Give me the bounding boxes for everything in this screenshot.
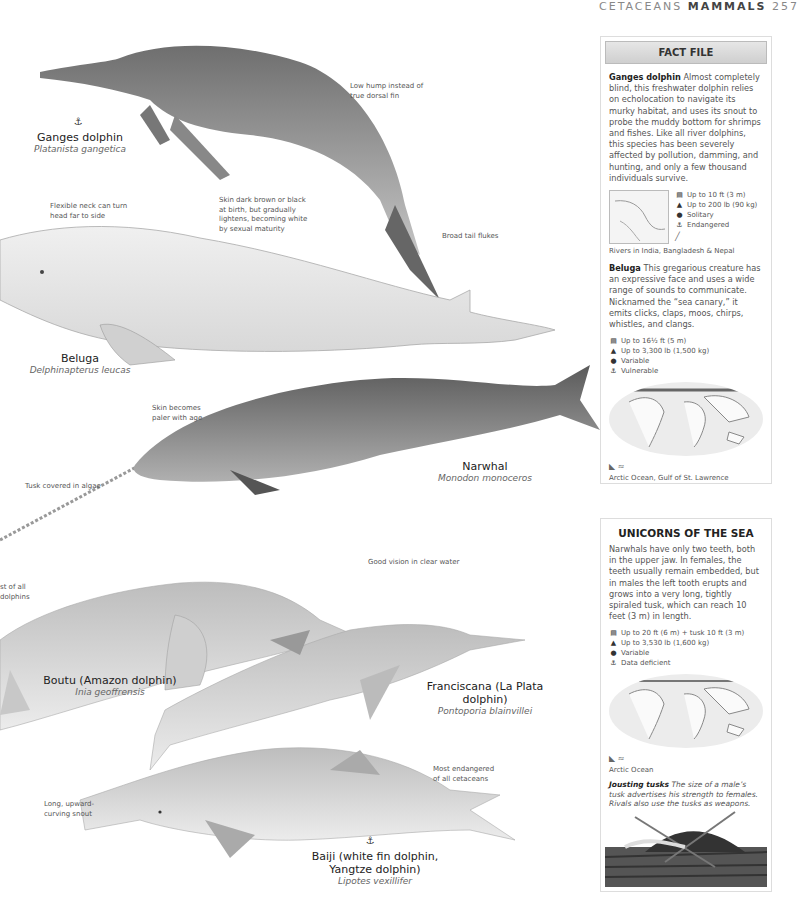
weight-icon: ▲ (609, 346, 618, 356)
social-icon: ● (675, 210, 684, 220)
annotation: st of all dolphins (0, 583, 40, 602)
ganges-fact: Ganges dolphin Almost completely blind, … (609, 72, 763, 184)
annotation: Long, upward-curving snout (44, 800, 104, 819)
species-scientific-name: Inia geoffrensis (40, 687, 180, 698)
beluga-range-map (609, 382, 763, 456)
section-title: CETACEANS (599, 0, 682, 13)
narwhal-illustration (0, 365, 600, 540)
unicorns-panel: UNICORNS OF THE SEA Narwhals have only t… (600, 518, 772, 892)
species-scientific-name: Monodon monoceros (430, 473, 540, 484)
unicorns-title: UNICORNS OF THE SEA (609, 527, 763, 539)
fact-text: Almost completely blind, this freshwater… (609, 72, 761, 183)
ganges-stats: ▤Up to 10 ft (3 m) ▲Up to 200 lb (90 kg)… (675, 190, 757, 244)
length-icon: ▤ (675, 190, 684, 200)
beluga-fact: Beluga This gregarious creature has an e… (609, 263, 763, 330)
species-label-narwhal: Narwhal Monodon monoceros (430, 460, 540, 484)
species-scientific-name: Platanista gangetica (20, 144, 140, 155)
annotation: Flexible neck can turn head far to side (50, 202, 135, 221)
fact-file-title: FACT FILE (605, 41, 767, 64)
narwhal-stats: ▤Up to 20 ft (6 m) + tusk 10 ft (3 m) ▲U… (609, 628, 763, 668)
jousting-narwhals-photo (605, 807, 767, 887)
beluga-habitat: Arctic Ocean, Gulf of St. Lawrence (609, 474, 763, 482)
species-label-ganges: Ganges dolphin Platanista gangetica (20, 131, 140, 155)
species-label-baiji: Baiji (white fin dolphin, Yangtze dolphi… (305, 850, 445, 887)
status-icon: ⚓ (675, 220, 684, 230)
annotation: Good vision in clear water (368, 558, 488, 568)
status-icon: ⚓ (609, 366, 618, 376)
ocean-habitat-icon: ◣ ≈ (609, 462, 763, 471)
length-icon: ▤ (609, 336, 618, 346)
species-name: Baiji (white fin dolphin, Yangtze dolphi… (305, 850, 445, 876)
annotation: Broad tail flukes (442, 232, 512, 242)
annotation: Most endangered of all cetaceans (433, 765, 503, 784)
social-icon: ● (609, 648, 618, 658)
species-name: Ganges dolphin (20, 131, 140, 144)
species-label-beluga: Beluga Delphinapterus leucas (10, 352, 150, 376)
annotation: Skin dark brown or black at birth, but g… (219, 196, 311, 234)
subsection-title: MAMMALS (688, 0, 767, 13)
ganges-range-map (609, 190, 669, 244)
ganges-habitat: Rivers in India, Bangladesh & Nepal (609, 247, 763, 255)
jousting-caption: Jousting tusks The size of a male’s tusk… (609, 780, 763, 809)
river-habitat-icon: ╱ (675, 232, 757, 242)
species-name: Franciscana (La Plata dolphin) (420, 680, 550, 706)
species-scientific-name: Pontoporia blainvillei (420, 706, 550, 717)
annotation: Tusk covered in algae (25, 482, 125, 492)
ganges-stats-block: ▤Up to 10 ft (3 m) ▲Up to 200 lb (90 kg)… (609, 190, 763, 244)
ocean-habitat-icon: ◣ ≈ (609, 754, 763, 763)
annotation: Skin becomes paler with age (152, 404, 212, 423)
species-name: Beluga (10, 352, 150, 365)
beluga-illustration (0, 226, 555, 365)
species-name: Narwhal (430, 460, 540, 473)
species-label-boutu: Boutu (Amazon dolphin) Inia geoffrensis (40, 674, 180, 698)
narwhal-habitat: Arctic Ocean (609, 766, 763, 774)
length-icon: ▤ (609, 628, 618, 638)
page-number: 257 (772, 0, 799, 13)
jousting-title: Jousting tusks (609, 780, 669, 789)
narwhal-range-map (609, 674, 763, 748)
endangered-icon: ⚓ (68, 116, 88, 127)
weight-icon: ▲ (609, 638, 618, 648)
beluga-stats: ▤Up to 16½ ft (5 m) ▲Up to 3,300 lb (1,5… (609, 336, 763, 376)
endangered-icon: ⚓ (360, 835, 380, 846)
unicorns-text: Narwhals have only two teeth, both in th… (609, 544, 763, 622)
social-icon: ● (609, 356, 618, 366)
species-name: Boutu (Amazon dolphin) (40, 674, 180, 687)
species-label-franciscana: Franciscana (La Plata dolphin) Pontopori… (420, 680, 550, 717)
species-scientific-name: Delphinapterus leucas (10, 365, 150, 376)
weight-icon: ▲ (675, 200, 684, 210)
fact-file-panel: FACT FILE Ganges dolphin Almost complete… (600, 36, 772, 484)
fact-species-name: Ganges dolphin (609, 72, 681, 82)
species-scientific-name: Lipotes vexillifer (305, 876, 445, 887)
fact-species-name: Beluga (609, 263, 641, 273)
status-icon: ⚓ (609, 658, 618, 668)
annotation: Low hump instead of true dorsal fin (350, 82, 430, 101)
